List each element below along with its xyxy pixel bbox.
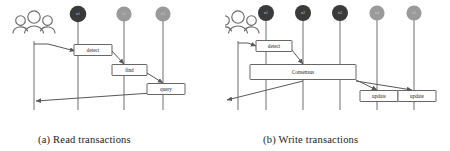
arrow-query-to-user — [36, 92, 166, 101]
diagram-b-canvas: n1 n2 n3 n4 n5 — [225, 0, 450, 120]
svg-text:n2: n2 — [122, 11, 126, 16]
svg-text:detect: detect — [268, 43, 281, 49]
arrow-user-to-detect — [238, 43, 256, 46]
svg-text:n2: n2 — [301, 10, 305, 15]
caption-panel-b: (b) Write transactions — [263, 134, 358, 145]
node-n1: n1 — [258, 5, 274, 110]
arrow-find-to-query — [147, 73, 163, 83]
svg-text:n3: n3 — [338, 10, 342, 15]
svg-text:find: find — [125, 67, 134, 73]
svg-text:n5: n5 — [412, 10, 416, 15]
svg-text:n4: n4 — [375, 10, 379, 15]
svg-text:n1: n1 — [264, 10, 268, 15]
message-box-find: find — [112, 65, 147, 76]
svg-text:detect: detect — [87, 47, 100, 53]
message-box-query: query — [147, 84, 185, 95]
arrow-detect-to-find — [112, 51, 124, 64]
svg-text:update: update — [410, 93, 425, 99]
panel-write-transactions: n1 n2 n3 n4 n5 — [225, 0, 450, 120]
users-actor-icon — [225, 11, 259, 33]
message-box-detect: detect — [256, 41, 292, 52]
svg-text:query: query — [160, 86, 172, 92]
arrow-consensus-to-update-n5 — [356, 81, 412, 90]
message-box-consensus: Consensus — [250, 65, 356, 80]
arrow-detect-to-consensus — [292, 50, 303, 64]
message-box-update-n4: update — [360, 91, 398, 102]
users-actor-icon — [13, 11, 55, 33]
svg-text:n3: n3 — [161, 11, 165, 16]
message-box-update-n5: update — [398, 91, 436, 102]
svg-text:Consensus: Consensus — [292, 69, 314, 75]
diagram-a-canvas: n1 n2 n3 — [0, 0, 225, 120]
arrow-user-to-detect — [34, 44, 75, 51]
svg-text:n1: n1 — [76, 11, 80, 16]
node-n1: n1 — [70, 6, 87, 110]
figure-sequence-diagrams: n1 n2 n3 — [0, 0, 450, 151]
caption-panel-a: (a) Read transactions — [38, 134, 131, 145]
panel-read-transactions: n1 n2 n3 — [0, 0, 225, 120]
svg-text:update: update — [372, 93, 387, 99]
node-n3: n3 — [332, 5, 348, 110]
message-box-detect: detect — [74, 45, 112, 56]
